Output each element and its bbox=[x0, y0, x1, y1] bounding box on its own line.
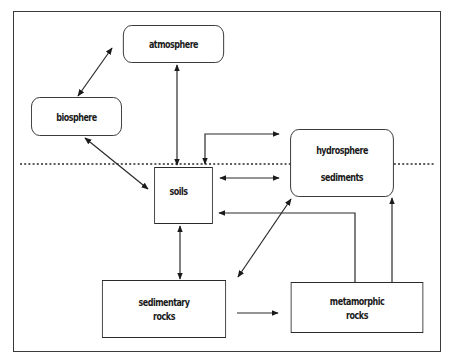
atmosphere-label: atmosphere bbox=[149, 37, 198, 51]
sedimentary-rocks-node: sedimentary rocks bbox=[102, 280, 226, 338]
metamorphic-rocks-label-line2: rocks bbox=[346, 308, 368, 322]
hydrosphere-label: hydrosphere bbox=[316, 143, 368, 157]
atmosphere-node: atmosphere bbox=[123, 25, 224, 63]
edge-metamorphic-soils bbox=[219, 213, 355, 282]
biosphere-label: biosphere bbox=[56, 110, 97, 124]
soils-node: soils bbox=[154, 167, 213, 224]
edge-biosphere-atmosphere bbox=[78, 48, 112, 96]
soils-label: soils bbox=[169, 184, 187, 198]
edge-sedimentary-hydrosphere bbox=[238, 199, 291, 277]
biosphere-node: biosphere bbox=[31, 97, 122, 136]
sedimentary-rocks-label-line1: sedimentary bbox=[138, 295, 189, 309]
hydrosphere-node: hydrosphere sediments bbox=[290, 129, 394, 197]
metamorphic-rocks-label-line1: metamorphic bbox=[330, 294, 384, 308]
sediments-label: sediments bbox=[321, 170, 363, 184]
sedimentary-rocks-label-line2: rocks bbox=[153, 309, 175, 323]
metamorphic-rocks-node: metamorphic rocks bbox=[291, 282, 424, 333]
edge-soils-hydrosphere-loop bbox=[205, 134, 279, 164]
